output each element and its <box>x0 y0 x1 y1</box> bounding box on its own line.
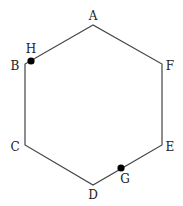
vertex-label-b: B <box>11 59 20 73</box>
vertex-label-f: F <box>166 59 174 73</box>
vertex-label-a: A <box>88 9 98 23</box>
vertex-label-d: D <box>88 188 98 202</box>
point-h-dot <box>27 57 34 64</box>
point-label-h: H <box>26 42 36 56</box>
vertex-label-e: E <box>166 140 175 154</box>
hexagon-outline <box>25 25 162 185</box>
hexagon-diagram: ABCDEF HG <box>0 0 183 206</box>
marked-points: HG <box>26 42 130 186</box>
vertex-labels: ABCDEF <box>10 9 174 202</box>
vertex-label-c: C <box>10 140 19 154</box>
point-g-dot <box>117 164 124 171</box>
point-label-g: G <box>120 172 130 186</box>
